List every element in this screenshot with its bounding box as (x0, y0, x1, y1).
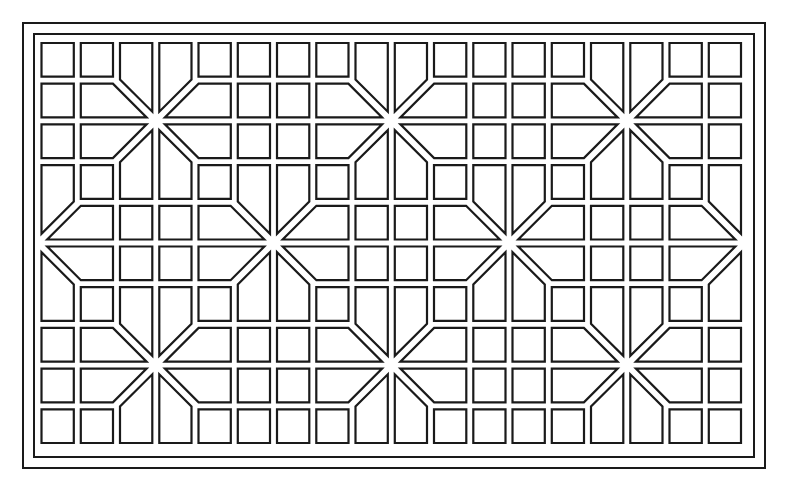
lattice-cell (513, 369, 545, 403)
lattice-cell (42, 409, 74, 443)
lattice-cell (120, 247, 152, 281)
lattice-cell (42, 43, 74, 77)
lattice-cell (552, 43, 584, 77)
lattice-cell (42, 84, 74, 118)
lattice-cell (159, 247, 191, 281)
lattice-cell (473, 43, 505, 77)
lattice-cell (513, 124, 545, 158)
lattice-cell (199, 165, 231, 199)
lattice-cell (199, 287, 231, 321)
lattice-cell (434, 165, 466, 199)
lattice-cell (238, 369, 270, 403)
lattice-cell (238, 409, 270, 443)
lattice-cell (238, 124, 270, 158)
lattice-diagram (0, 0, 785, 487)
lattice-cell (159, 206, 191, 240)
lattice-cell (591, 247, 623, 281)
lattice-cell (395, 247, 427, 281)
lattice-cell (81, 165, 113, 199)
lattice-cell (709, 84, 741, 118)
lattice-cell (316, 409, 348, 443)
lattice-cell (238, 328, 270, 362)
lattice-cell (42, 328, 74, 362)
lattice-cell (473, 409, 505, 443)
lattice-cell (709, 328, 741, 362)
lattice-cell (434, 287, 466, 321)
lattice-cell (81, 287, 113, 321)
lattice-cell (356, 206, 388, 240)
lattice-cell (709, 124, 741, 158)
lattice-cell (513, 328, 545, 362)
lattice-cell (316, 43, 348, 77)
lattice-cell (670, 287, 702, 321)
lattice-cell (199, 409, 231, 443)
lattice-cell (238, 84, 270, 118)
lattice-cell (630, 247, 662, 281)
lattice-cell (277, 43, 309, 77)
lattice-cell (709, 409, 741, 443)
lattice-cell (199, 43, 231, 77)
lattice-cell (277, 369, 309, 403)
lattice-cell (552, 287, 584, 321)
lattice-cell (434, 409, 466, 443)
lattice-cell (473, 328, 505, 362)
lattice-cell (473, 124, 505, 158)
lattice-cell (670, 409, 702, 443)
lattice-cell (277, 124, 309, 158)
lattice-cell (552, 409, 584, 443)
lattice-cell (709, 43, 741, 77)
lattice-cell (513, 84, 545, 118)
lattice-cell (356, 247, 388, 281)
background (0, 0, 785, 487)
lattice-cell (591, 206, 623, 240)
lattice-cell (42, 369, 74, 403)
lattice-cell (513, 409, 545, 443)
lattice-cell (277, 84, 309, 118)
lattice-cell (316, 165, 348, 199)
lattice-cell (473, 84, 505, 118)
lattice-cell (670, 43, 702, 77)
lattice-cell (277, 409, 309, 443)
lattice-cell (120, 206, 152, 240)
lattice-cell (277, 328, 309, 362)
lattice-cell (395, 206, 427, 240)
lattice-cell (630, 206, 662, 240)
lattice-cell (434, 43, 466, 77)
lattice-cell (473, 369, 505, 403)
lattice-cell (709, 369, 741, 403)
lattice-cell (670, 165, 702, 199)
lattice-cell (513, 43, 545, 77)
lattice-cell (81, 409, 113, 443)
lattice-cell (552, 165, 584, 199)
lattice-cell (316, 287, 348, 321)
lattice-cell (81, 43, 113, 77)
lattice-cell (238, 43, 270, 77)
lattice-cell (42, 124, 74, 158)
